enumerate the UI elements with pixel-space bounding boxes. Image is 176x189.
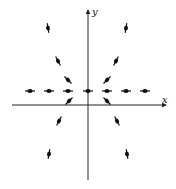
x-axis-label: x [162,94,168,105]
y-axis-label: y [91,6,98,17]
slope-segment [112,56,120,67]
slope-segment [54,56,62,67]
segment-dot [46,25,51,31]
slope-segment [55,116,63,127]
slope-segment [123,23,128,34]
slope-segment [113,116,121,127]
segment-dot [114,118,120,124]
slope-segment [46,149,51,160]
segment-dot [125,151,130,157]
slope-segment [45,23,50,34]
segment-dot [46,89,51,93]
segment-dot [85,89,90,93]
slope-segment [102,89,112,93]
slope-segment [64,96,74,106]
slope-segment [83,89,93,93]
segment-dot [142,89,147,93]
slope-segment [140,89,150,93]
segment-dot [104,89,109,93]
slope-segment [25,89,35,93]
slope-segment [102,96,112,106]
segment-dot [56,118,62,124]
slope-segment [102,75,112,85]
segment-dot [65,89,70,93]
slope-segment [63,89,73,93]
direction-field-diagram: x y [0,0,176,189]
segment-dot [55,58,61,64]
slope-segment [44,89,54,93]
slope-segment [124,149,129,160]
slope-segment [121,89,131,93]
segment-dot [113,58,119,64]
segment-dot [47,151,52,157]
segment-dot [27,89,32,93]
slope-segment [63,75,73,85]
segment-dot [123,89,128,93]
segment-dot [124,25,129,31]
